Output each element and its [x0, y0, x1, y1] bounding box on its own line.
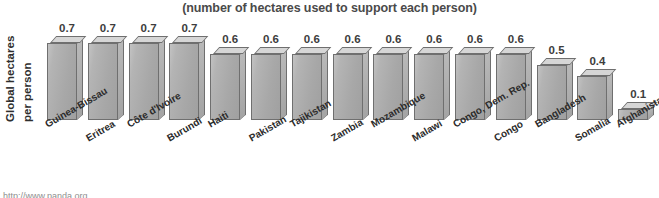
x-axis-category-label: Somalia: [573, 115, 612, 144]
x-axis-category-label: Congo: [492, 118, 525, 143]
bar-value-label: 0.6: [455, 33, 495, 45]
bar-3d-box: [169, 36, 202, 120]
bar-value-label: 0.6: [292, 33, 332, 45]
bar-side-face: [118, 38, 124, 120]
bar-item: 0.7: [169, 30, 209, 120]
x-axis-category-label: Eritrea: [84, 118, 117, 143]
y-axis-label-line-2: per person: [21, 63, 33, 122]
x-axis-category-labels: Guinea-BissauEritreaCôte d'IvoireBurundi…: [47, 118, 659, 188]
bar-side-face: [444, 49, 450, 120]
bar-value-label: 0.5: [537, 44, 577, 56]
bar-chart: (number of hectares used to support each…: [0, 0, 659, 198]
bar-3d-box: [414, 47, 447, 120]
bar-value-label: 0.7: [169, 22, 209, 34]
bar-front-face: [251, 54, 281, 120]
y-axis-label-line-1: Global hectares: [4, 36, 16, 122]
bar-value-label: 0.6: [414, 33, 454, 45]
x-axis-category-label: Pakistan: [247, 113, 288, 143]
bar-value-label: 0.7: [88, 22, 128, 34]
bar-item: 0.6: [414, 30, 454, 120]
y-axis-label: Global hectares per person: [2, 18, 46, 122]
bar-value-label: 0.4: [577, 55, 617, 67]
bar-item: 0.6: [251, 30, 291, 120]
x-axis-category-label: Burundi: [165, 115, 204, 144]
bar-side-face: [363, 49, 369, 120]
bar-top-face: [540, 58, 576, 65]
bar-front-face: [414, 54, 444, 120]
bar-front-face: [169, 43, 199, 120]
bar-value-label: 0.6: [251, 33, 291, 45]
bar-value-label: 0.7: [47, 22, 87, 34]
bar-side-face: [240, 49, 246, 120]
bar-side-face: [607, 71, 613, 120]
bar-front-face: [88, 43, 118, 120]
bar-value-label: 0.6: [373, 33, 413, 45]
chart-title: (number of hectares used to support each…: [0, 1, 659, 15]
bar-3d-box: [251, 47, 284, 120]
bar-item: 0.6: [333, 30, 373, 120]
x-axis-category-label: Malawi: [410, 118, 444, 144]
bar-item: 0.7: [88, 30, 128, 120]
bar-front-face: [333, 54, 363, 120]
source-url: http://www.panda.org: [3, 191, 88, 198]
x-axis-category-label: Zambia: [329, 116, 365, 143]
bar-item: 0.6: [496, 30, 536, 120]
bar-value-label: 0.7: [129, 22, 169, 34]
bar-3d-box: [333, 47, 366, 120]
bar-3d-box: [210, 47, 243, 120]
bar-side-face: [281, 49, 287, 120]
bar-value-label: 0.6: [496, 33, 536, 45]
bar-value-label: 0.6: [333, 33, 373, 45]
bar-top-face: [336, 47, 372, 54]
bar-item: 0.4: [577, 30, 617, 120]
bar-top-face: [132, 36, 168, 43]
bar-item: 0.6: [210, 30, 250, 120]
bar-3d-box: [88, 36, 121, 120]
bar-value-label: 0.6: [210, 33, 250, 45]
bar-side-face: [199, 38, 205, 120]
